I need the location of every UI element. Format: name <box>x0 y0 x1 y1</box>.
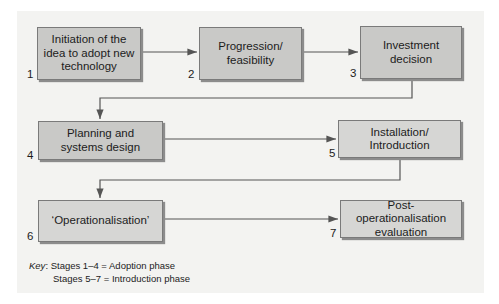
stage-7-number: 7 <box>330 227 336 239</box>
stage-5-box: Installation/ Introduction <box>338 120 461 158</box>
stage-4-label: Planning and systems design <box>46 127 156 154</box>
stage-5-number: 5 <box>329 147 335 159</box>
stage-3-box: Investment decision <box>360 26 462 79</box>
stage-2-number: 2 <box>188 68 194 80</box>
stage-6-number: 6 <box>27 230 33 242</box>
stage-6-box: ‘Operationalisation’ <box>38 200 163 242</box>
key-line-2: Stages 5–7 = Introduction phase <box>29 272 190 285</box>
stage-6-label: ‘Operationalisation’ <box>52 214 150 228</box>
stage-4-box: Planning and systems design <box>38 121 163 160</box>
key-legend: Key: Stages 1–4 = Adoption phase Stages … <box>29 259 190 285</box>
stage-1-number: 1 <box>27 68 33 80</box>
stage-2-label: Progression/ feasibility <box>216 40 286 67</box>
stage-1-label: Initiation of the idea to adopt new tech… <box>42 33 136 74</box>
stage-7-box: Post-operationalisation evaluation <box>340 200 462 238</box>
stage-5-label: Installation/ Introduction <box>365 126 435 153</box>
stage-7-label: Post-operationalisation evaluation <box>345 199 457 240</box>
stage-2-box: Progression/ feasibility <box>199 27 302 80</box>
key-line-1: : Stages 1–4 = Adoption phase <box>45 260 175 271</box>
stage-1-box: Initiation of the idea to adopt new tech… <box>37 27 141 80</box>
stage-3-number: 3 <box>350 67 356 79</box>
stage-4-number: 4 <box>27 149 33 161</box>
key-label: Key <box>29 260 45 271</box>
stage-3-label: Investment decision <box>376 39 446 66</box>
